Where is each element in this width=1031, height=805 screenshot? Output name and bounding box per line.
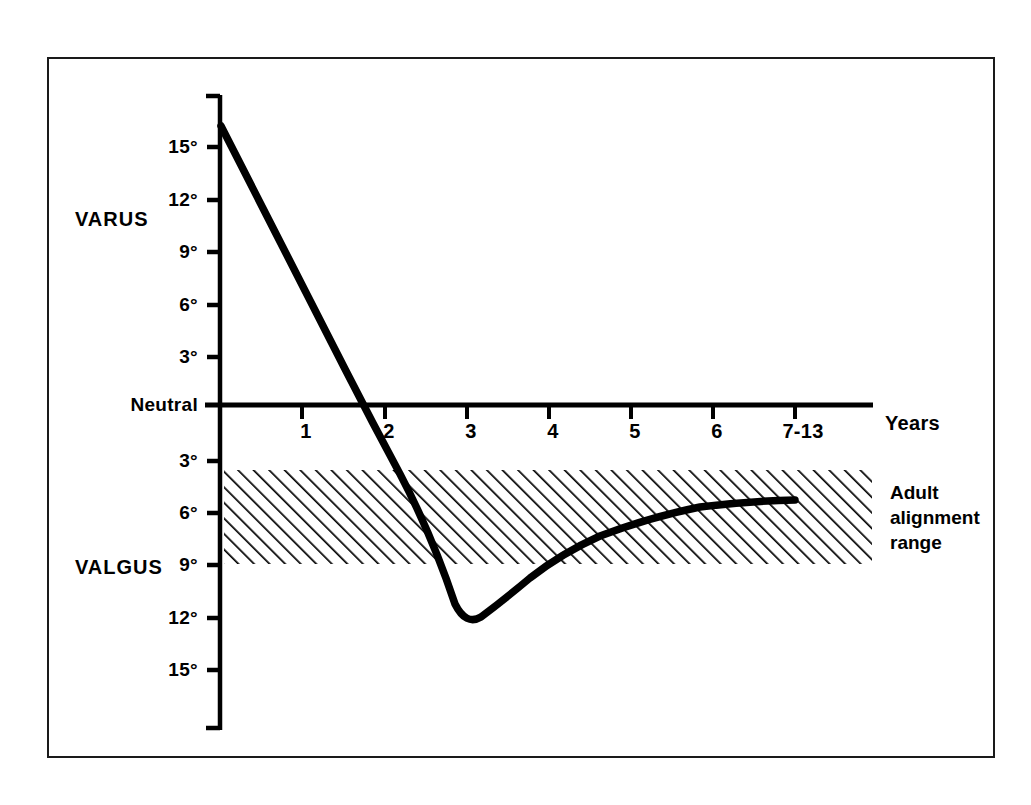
x-axis-title: Years	[885, 412, 940, 435]
xtick-label-1: 1	[300, 420, 311, 443]
ytick-label-valgus-6: 6°	[118, 502, 198, 524]
band-label-line-1: Adult	[890, 480, 980, 505]
ytick-label-varus-3: 3°	[118, 346, 198, 368]
varus-label: VARUS	[75, 208, 149, 231]
adult-alignment-range-label: Adult alignment range	[890, 480, 980, 555]
ytick-label-varus-9: 9°	[118, 241, 198, 263]
xtick-label-6: 6	[711, 420, 722, 443]
xtick-label-3: 3	[465, 420, 476, 443]
band-label-line-2: alignment	[890, 505, 980, 530]
ytick-label-valgus-15: 15°	[118, 659, 198, 681]
xtick-label-7-13: 7-13	[782, 420, 823, 443]
ytick-label-valgus-12: 12°	[118, 607, 198, 629]
xtick-label-4: 4	[547, 420, 558, 443]
band-label-line-3: range	[890, 530, 980, 555]
ytick-label-varus-15: 15°	[118, 136, 198, 158]
valgus-label: VALGUS	[75, 556, 163, 579]
y-axis	[206, 95, 220, 730]
figure-page: 15° 12° 9° 6° 3° Neutral 3° 6° 9° 12° 15…	[0, 0, 1031, 805]
adult-alignment-band	[224, 470, 872, 564]
xtick-label-5: 5	[629, 420, 640, 443]
xtick-label-2: 2	[383, 420, 394, 443]
ytick-label-varus-6: 6°	[118, 294, 198, 316]
ytick-label-neutral: Neutral	[80, 394, 198, 416]
ytick-label-valgus-3: 3°	[118, 450, 198, 472]
